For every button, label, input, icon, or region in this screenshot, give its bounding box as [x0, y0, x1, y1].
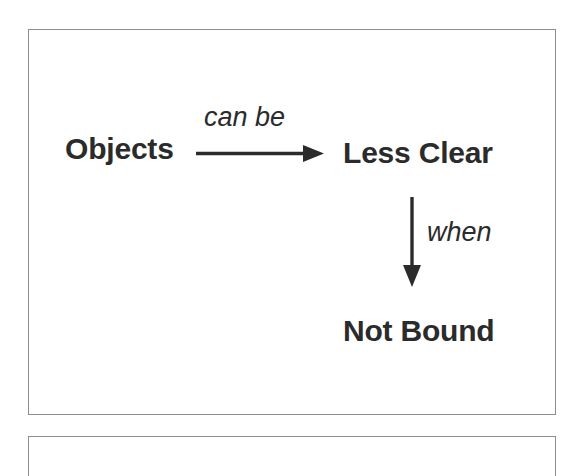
edge-label-when: when [427, 219, 492, 246]
node-objects: Objects [65, 134, 174, 164]
node-less-clear: Less Clear [343, 138, 493, 168]
arrow-less-clear-to-not-bound [403, 197, 421, 287]
edge-label-can-be: can be [204, 104, 285, 131]
node-not-bound: Not Bound [343, 316, 494, 346]
figure-frame-next-partial [28, 436, 556, 476]
arrow-objects-to-less-clear [196, 145, 324, 162]
